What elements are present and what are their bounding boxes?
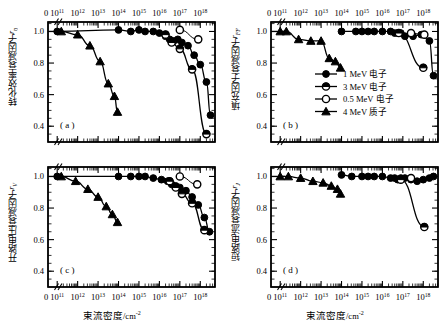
y-tick-label: 1.0 <box>33 171 44 181</box>
y-tick-label: 0.6 <box>33 90 44 100</box>
y-tick-label: 0.6 <box>33 235 44 245</box>
y-tick-label: 0.8 <box>33 58 44 68</box>
x-tick-label: 1016 <box>375 292 389 302</box>
x-tick-label: 1013 <box>91 292 105 302</box>
panel-a-y-axis-label-text: 转化效率衰减因子 <box>7 34 17 106</box>
panel-d-y-axis-symbol: r <box>230 186 239 189</box>
y-tick-label: 0.8 <box>256 58 267 68</box>
y-tick-label: 1.0 <box>256 26 267 36</box>
panel-b: 1.00.80.60.40101110121013101410151016101… <box>223 0 446 164</box>
x-tick-label-zero: 0 <box>267 292 271 302</box>
y-tick-label: 0.4 <box>33 121 44 131</box>
x-tick-label: 1015 <box>355 8 369 18</box>
y-tick-label: 0.4 <box>33 266 44 276</box>
panel-c-y-axis-subscript: V <box>12 183 18 187</box>
y-tick-label: 0.6 <box>256 90 267 100</box>
x-tick-label-zero: 0 <box>267 8 271 18</box>
panel-a-y-axis-subscript: η <box>12 28 18 31</box>
panel-c-letter: ( c ) <box>60 265 75 275</box>
panel-a-letter: ( a ) <box>60 120 75 130</box>
x-tick-label: 1013 <box>314 292 328 302</box>
panel-a: 1.00.80.60.40101110121013101410151016101… <box>0 0 223 164</box>
x-tick-label: 1018 <box>416 8 430 18</box>
panel-d-y-axis-subscript: J <box>235 183 241 186</box>
panel-b-letter: ( b ) <box>283 120 298 130</box>
x-tick-label: 1014 <box>111 8 125 18</box>
x-tick-label: 1017 <box>396 8 410 18</box>
x-tick-label: 1016 <box>152 8 166 18</box>
panel-b-y-axis-subscript: FF <box>235 28 241 35</box>
panel-b-y-axis-label: 填充因子衰减因子rFF <box>231 28 241 110</box>
panel-d-y-axis-label-text: 短路电流衰减因子 <box>230 189 240 261</box>
panel-d-y-axis-label: 短路电流衰减因子rJ <box>231 183 241 261</box>
x-tick-label: 1016 <box>375 8 389 18</box>
x-tick-label: 1015 <box>132 8 146 18</box>
y-tick-label: 0.8 <box>33 203 44 213</box>
x-tick-label: 1017 <box>173 292 187 302</box>
x-tick-label: 1014 <box>334 8 348 18</box>
series-line <box>166 35 207 134</box>
x-tick-label: 1013 <box>314 8 328 18</box>
legend-label: 4 MeV 质子 <box>343 106 387 117</box>
y-tick-label: 0.4 <box>256 266 267 276</box>
panel-c-x-axis-unit-exponent: -2 <box>136 310 141 316</box>
panel-a-y-axis-symbol: r <box>7 31 16 34</box>
x-tick-label-zero: 0 <box>44 292 48 302</box>
x-tick-label: 1011 <box>50 292 64 302</box>
x-tick-label: 1018 <box>193 8 207 18</box>
panel-c-x-axis-title-text: 束流密度 <box>83 310 123 321</box>
panel-d: 1.00.80.60.40101110121013101410151016101… <box>223 155 446 328</box>
x-tick-label: 1017 <box>396 292 410 302</box>
panel-d-x-axis-title-text: 束流密度 <box>306 310 346 321</box>
panel-c: 1.00.80.60.40101110121013101410151016101… <box>0 155 223 328</box>
y-tick-label: 0.8 <box>256 203 267 213</box>
panel-b-y-axis-symbol: r <box>230 35 239 38</box>
panel-d-x-axis-title: 束流密度/cm-2 <box>306 308 364 322</box>
x-tick-label: 1015 <box>355 292 369 302</box>
y-tick-label: 1.0 <box>256 171 267 181</box>
y-tick-label: 0.6 <box>256 235 267 245</box>
x-tick-label: 1018 <box>193 292 207 302</box>
panel-d-letter: ( d ) <box>283 265 298 275</box>
x-tick-label: 1012 <box>294 8 308 18</box>
y-tick-label: 0.4 <box>256 121 267 131</box>
x-tick-label: 1014 <box>334 292 348 302</box>
panel-c-y-axis-symbol: r <box>7 187 16 190</box>
panel-d-x-axis-unit: /cm <box>346 311 359 321</box>
x-tick-label: 1011 <box>273 292 287 302</box>
x-tick-label: 1015 <box>132 292 146 302</box>
y-tick-label: 1.0 <box>33 26 44 36</box>
x-tick-label-zero: 0 <box>44 8 48 18</box>
legend-label: 1 MeV 电子 <box>343 68 387 79</box>
legend-label: 0.5 MeV 电子 <box>343 93 394 104</box>
x-tick-label: 1017 <box>173 8 187 18</box>
panel-d-x-axis-unit-exponent: -2 <box>359 310 364 316</box>
panel-c-x-axis-unit: /cm <box>123 311 136 321</box>
x-tick-label: 1011 <box>273 8 287 18</box>
x-tick-label: 1014 <box>111 292 125 302</box>
x-tick-label: 1012 <box>71 292 85 302</box>
x-tick-label: 1012 <box>71 8 85 18</box>
x-tick-label: 1012 <box>294 292 308 302</box>
panel-a-y-axis-label: 转化效率衰减因子rη <box>8 28 18 106</box>
panel-c-x-axis-title: 束流密度/cm-2 <box>83 308 141 322</box>
x-tick-label: 1011 <box>50 8 64 18</box>
x-tick-label: 1016 <box>152 292 166 302</box>
legend-label: 3 MeV 电子 <box>343 81 387 92</box>
panel-c-y-axis-label: 开路电压衰减因子rV <box>8 183 18 262</box>
x-tick-label: 1013 <box>91 8 105 18</box>
panel-c-y-axis-label-text: 开路电压衰减因子 <box>7 190 17 262</box>
figure-root: 1.00.80.60.40101110121013101410151016101… <box>0 0 446 328</box>
panel-b-y-axis-label-text: 填充因子衰减因子 <box>230 38 240 110</box>
x-tick-label: 1018 <box>416 292 430 302</box>
series-line <box>401 180 425 227</box>
